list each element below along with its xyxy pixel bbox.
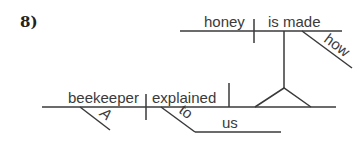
problem-number: 8) <box>20 13 38 31</box>
subject-modifier: A <box>96 103 115 123</box>
preposition-object: us <box>222 114 238 131</box>
pedestal-triangle <box>255 88 311 107</box>
main-clause: beekeeper explained A to us <box>42 83 336 132</box>
sentence-diagram: 8) honey is made how beekeeper explained… <box>0 0 362 141</box>
noun-clause: honey is made how <box>180 13 354 88</box>
clause-adverb: how <box>321 30 353 60</box>
clause-verb: is made <box>268 13 321 30</box>
clause-subject: honey <box>204 13 245 30</box>
main-subject: beekeeper <box>68 89 139 106</box>
